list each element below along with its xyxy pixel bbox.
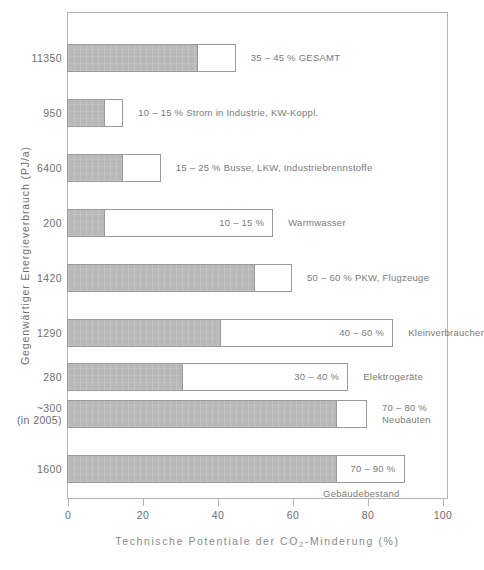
y-tick-label: ~300(in 2005) xyxy=(0,400,62,428)
y-tick-label: 950 xyxy=(0,99,62,127)
y-tick-label: 280 xyxy=(0,363,62,391)
x-tick-mark xyxy=(443,499,444,506)
bar-range-annotation: 70 – 80 % xyxy=(382,402,431,414)
x-axis-title: Technische Potentiale der CO2-Minderung … xyxy=(67,535,448,547)
y-tick-value: 1600 xyxy=(37,463,62,475)
x-tick-mark xyxy=(143,499,144,506)
x-axis-title-subscript: 2 xyxy=(299,540,305,549)
bar-low-fill xyxy=(67,363,183,391)
x-tick-mark xyxy=(368,499,369,506)
x-tick-mark xyxy=(293,499,294,506)
y-tick-label: 1290 xyxy=(0,319,62,347)
x-tick-label: 40 xyxy=(212,509,224,521)
bar-range-annotation: 10 – 15 % xyxy=(219,217,264,228)
bar-annotation: 15 – 25 % Busse, LKW, Industriebrennstof… xyxy=(176,162,373,174)
x-tick-label: 0 xyxy=(65,509,71,521)
x-tick-label: 80 xyxy=(362,509,374,521)
x-tick-mark xyxy=(218,499,219,506)
bar-range-annotation: 70 – 90 % xyxy=(350,463,395,474)
bar-annotation: 50 – 60 % PKW, Flugzeuge xyxy=(307,272,429,284)
bar-low-fill xyxy=(67,319,221,347)
bar-low-fill xyxy=(67,264,255,292)
x-axis-title-suffix: -Minderung (%) xyxy=(305,535,400,547)
bar-annotation: 10 – 15 % Strom in Industrie, KW-Koppl. xyxy=(138,107,318,119)
bar-low-fill xyxy=(67,99,105,127)
y-tick-value: 200 xyxy=(43,217,62,229)
bar-low-fill xyxy=(67,44,198,72)
y-tick-label: 1600 xyxy=(0,455,62,483)
y-tick-label: 1420 xyxy=(0,264,62,292)
bar-low-fill xyxy=(67,400,337,428)
bar-low-fill xyxy=(67,209,105,237)
y-tick-value: 280 xyxy=(43,371,62,383)
bar-sector-annotation: Gebäudebestand xyxy=(323,488,399,500)
y-tick-label: 11350 xyxy=(0,44,62,72)
bar-sector-annotation: Elektrogeräte xyxy=(363,371,423,383)
bar-sector-annotation: Neubauten xyxy=(382,414,431,426)
x-axis-title-prefix: Technische Potentiale der CO xyxy=(115,535,299,547)
y-tick-value: 950 xyxy=(43,107,62,119)
y-tick-value: ~300 xyxy=(37,402,62,414)
bar-low-fill xyxy=(67,154,123,182)
x-tick-label: 100 xyxy=(434,509,453,521)
x-tick-label: 60 xyxy=(287,509,299,521)
y-tick-label: 200 xyxy=(0,209,62,237)
y-tick-label: 6400 xyxy=(0,154,62,182)
bar-annotation-group: 70 – 80 %Neubauten xyxy=(382,402,431,425)
x-tick-label: 20 xyxy=(137,509,149,521)
x-tick-mark xyxy=(68,499,69,506)
bar-sector-annotation: Warmwasser xyxy=(288,217,346,229)
y-tick-value: 6400 xyxy=(37,162,62,174)
y-tick-sublabel: (in 2005) xyxy=(17,414,62,426)
bar-low-fill xyxy=(67,455,337,483)
bar-sector-annotation: Kleinverbraucher xyxy=(408,327,484,339)
bar-annotation: 35 – 45 % GESAMT xyxy=(251,52,341,64)
y-tick-value: 11350 xyxy=(32,52,62,64)
bar-row xyxy=(67,319,448,347)
x-axis: 020406080100 Technische Potentiale der C… xyxy=(67,499,448,569)
y-tick-value: 1290 xyxy=(37,327,62,339)
bar-range-annotation: 40 – 60 % xyxy=(339,327,384,338)
bar-range-annotation: 30 – 40 % xyxy=(294,371,339,382)
y-tick-value: 1420 xyxy=(37,272,62,284)
